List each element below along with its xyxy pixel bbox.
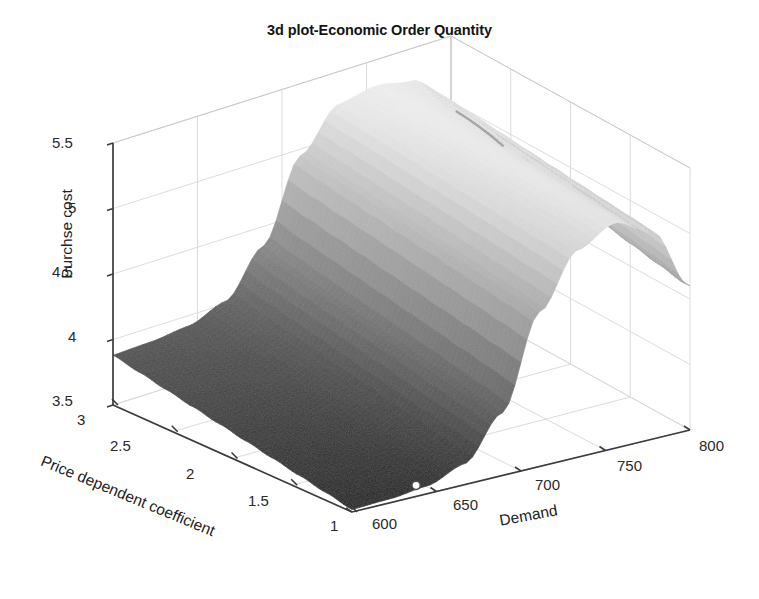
surface-plot-3d <box>0 0 759 599</box>
x-tick-label: 2 <box>186 465 194 482</box>
figure-canvas: 3d plot-Economic Order Quantity <box>0 0 759 599</box>
x-tick-label: 2.5 <box>110 437 131 454</box>
y-tick-label: 5.5 <box>52 134 73 151</box>
z-tick-label: 650 <box>453 496 478 513</box>
y-tick-label: 3.5 <box>52 392 73 409</box>
x-tick-label: 3 <box>77 411 85 428</box>
y-tick-label: 4 <box>68 328 76 345</box>
minimum-point-marker <box>412 481 420 489</box>
z-tick-label: 800 <box>699 437 724 454</box>
z-tick-label: 750 <box>617 457 642 474</box>
z-tick-label: 700 <box>535 476 560 493</box>
page-title: 3d plot-Economic Order Quantity <box>0 22 759 38</box>
x-tick-label: 1 <box>330 517 338 534</box>
x-tick-label: 1.5 <box>248 492 269 509</box>
y-axis-title: Purchse cost <box>58 154 76 314</box>
surface-mesh <box>113 80 690 509</box>
z-tick-label: 600 <box>372 515 397 532</box>
